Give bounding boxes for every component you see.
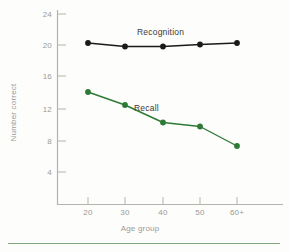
x-tick-label-60plus: 60+ bbox=[224, 208, 250, 217]
y-tick-label-12: 12 bbox=[34, 105, 52, 114]
series-annotation-recognition: Recognition bbox=[137, 27, 184, 37]
series-markers-recall bbox=[85, 89, 240, 149]
series-annotation-recall: Recall bbox=[134, 103, 159, 113]
y-tick-label-4: 4 bbox=[34, 168, 52, 177]
y-axis-ticks bbox=[58, 14, 67, 172]
x-tick-label-40: 40 bbox=[150, 208, 176, 217]
y-tick-label-20: 20 bbox=[34, 41, 52, 50]
x-tick-label-20: 20 bbox=[75, 208, 101, 217]
x-tick-label-30: 30 bbox=[112, 208, 138, 217]
y-axis-title: Number correct bbox=[9, 78, 18, 148]
x-axis-title: Age group bbox=[100, 224, 180, 233]
y-tick-label-16: 16 bbox=[34, 72, 52, 81]
x-tick-label-50: 50 bbox=[187, 208, 213, 217]
chart-figure: 24 20 16 12 8 4 20 30 40 50 60+ Number c… bbox=[0, 0, 289, 252]
y-tick-label-24: 24 bbox=[34, 10, 52, 19]
x-axis-ticks bbox=[88, 197, 237, 205]
series-line-recall bbox=[88, 92, 237, 146]
bottom-divider-rule bbox=[8, 243, 280, 244]
y-tick-label-8: 8 bbox=[34, 137, 52, 146]
